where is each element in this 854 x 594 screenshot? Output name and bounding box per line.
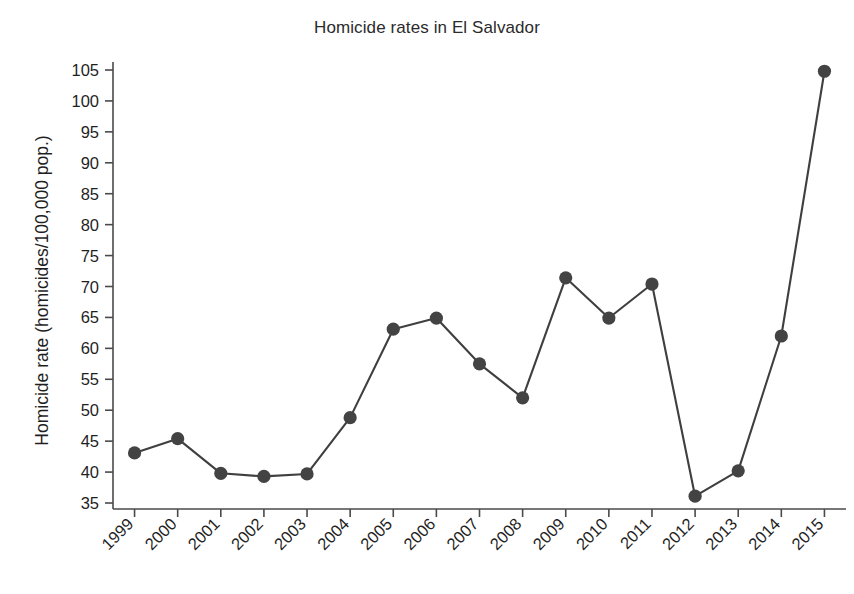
x-tick-label: 2008 [486,514,525,553]
x-tick-label: 2010 [572,514,611,553]
x-tick-label: 2007 [443,514,482,553]
data-point-marker [473,357,486,370]
y-tick-label: 85 [81,185,99,203]
data-point-marker [688,490,701,503]
data-point-marker [732,464,745,477]
y-tick-label: 55 [81,370,99,388]
data-point-marker [430,311,443,324]
data-point-marker [559,271,572,284]
x-tick-label: 2015 [788,514,827,553]
chart-figure: Homicide rates in El Salvador Homicide r… [0,0,854,594]
data-point-marker [344,411,357,424]
data-point-marker [128,446,141,459]
y-axis-ticks: 35404550556065707580859095100105 [71,61,113,512]
y-tick-label: 80 [81,216,99,234]
x-tick-label: 2011 [616,514,654,552]
data-point-marker [775,329,788,342]
x-tick-label: 2012 [659,514,698,553]
y-tick-label: 35 [81,494,99,512]
x-tick-label: 2000 [141,514,180,553]
data-point-marker [818,65,831,78]
data-point-marker [602,311,615,324]
data-point-marker [645,277,658,290]
x-tick-label: 2006 [400,514,439,553]
y-tick-label: 95 [81,123,99,141]
data-point-marker [171,432,184,445]
y-tick-label: 65 [81,308,99,326]
y-tick-label: 70 [81,278,99,296]
data-points [128,65,831,503]
x-tick-label: 2001 [184,514,223,553]
x-tick-label: 2013 [702,514,741,553]
y-tick-label: 60 [81,339,99,357]
data-line [135,71,825,496]
data-point-marker [387,323,400,336]
y-tick-label: 40 [81,463,99,481]
data-point-marker [214,467,227,480]
data-point-marker [257,470,270,483]
y-tick-label: 105 [71,61,99,79]
x-tick-label: 2005 [357,514,396,553]
data-point-marker [300,467,313,480]
x-tick-label: 2014 [745,514,784,553]
plot-area: 35404550556065707580859095100105 1999200… [0,0,854,594]
y-tick-label: 100 [71,92,99,110]
x-tick-label: 2002 [227,514,266,553]
y-tick-label: 45 [81,432,99,450]
y-tick-label: 75 [81,247,99,265]
y-tick-label: 90 [81,154,99,172]
x-tick-label: 1999 [98,514,137,553]
x-tick-label: 2003 [270,514,309,553]
x-axis-ticks: 1999200020012002200320042005200620072008… [98,509,827,553]
y-tick-label: 50 [81,401,99,419]
data-point-marker [516,391,529,404]
x-tick-label: 2004 [314,514,353,553]
x-tick-label: 2009 [529,514,568,553]
